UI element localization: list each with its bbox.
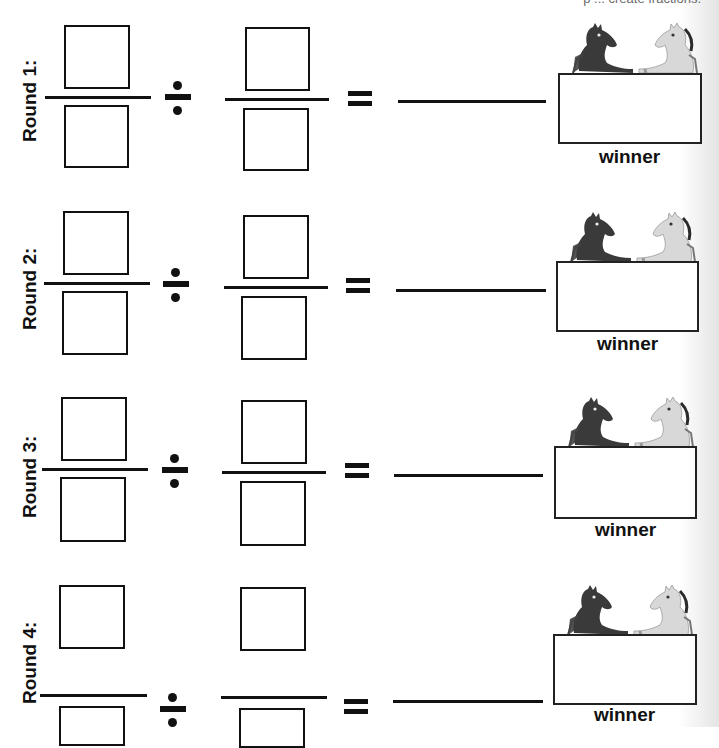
fraction1-numerator-box[interactable] xyxy=(59,585,125,649)
winner-label: winner xyxy=(553,704,696,726)
equals-icon xyxy=(344,699,368,715)
fraction1-denominator-box[interactable] xyxy=(59,706,125,746)
dark-horse-icon xyxy=(568,585,628,635)
fraction1-bar xyxy=(40,694,147,697)
fraction2-bar xyxy=(221,696,327,699)
round-label: Round 4: xyxy=(19,622,41,704)
fraction2-numerator-box[interactable] xyxy=(240,587,306,651)
answer-line[interactable] xyxy=(393,700,543,703)
two-horses-icon xyxy=(560,585,700,635)
fraction2-denominator-box[interactable] xyxy=(239,708,305,748)
winner-box[interactable] xyxy=(553,634,697,705)
divide-icon xyxy=(160,693,186,727)
light-horse-icon xyxy=(634,585,692,635)
